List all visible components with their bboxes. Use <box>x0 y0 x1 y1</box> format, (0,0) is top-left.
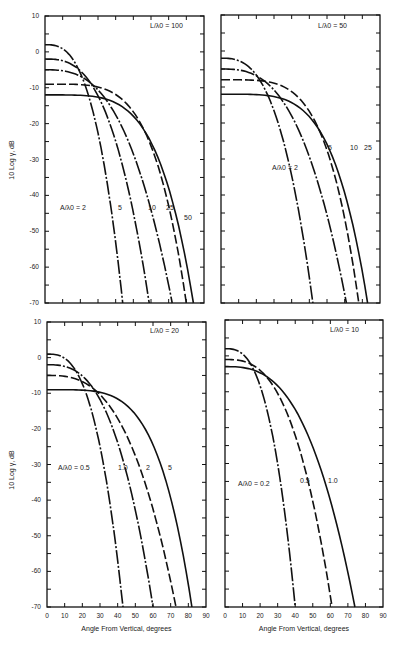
x-tick-label: 80 <box>185 612 193 619</box>
y-tick-label: -60 <box>30 263 40 270</box>
series-label: 1.0 <box>118 464 128 471</box>
curve-series <box>221 94 368 303</box>
series-label: A/λ0 = 2 <box>272 164 298 171</box>
x-tick-label: 10 <box>239 612 247 619</box>
series-label: 5 <box>168 464 172 471</box>
curve-series <box>45 70 172 303</box>
x-tick-label: 90 <box>379 612 387 619</box>
x-tick-label: 70 <box>167 612 175 619</box>
panel-top-left: 100-10-20-30-40-50-60-70L/λ0 = 100A/λ0 =… <box>30 12 204 306</box>
x-tick-label: 60 <box>149 612 157 619</box>
series-label: A/λ0 = 0.5 <box>58 464 90 471</box>
series-label: A/λ0 = 0.2 <box>238 480 270 487</box>
y-tick-label: 0 <box>37 354 41 361</box>
series-label: 2 <box>146 464 150 471</box>
panel-annotation: L/λ0 = 100 <box>150 22 183 29</box>
x-tick-label: 30 <box>96 612 104 619</box>
y-tick-label: -50 <box>30 227 40 234</box>
x-tick-label: 20 <box>79 612 87 619</box>
x-tick-label: 50 <box>132 612 140 619</box>
x-tick-label: 90 <box>202 612 210 619</box>
y-tick-label: 0 <box>35 48 39 55</box>
curve-series <box>47 354 123 607</box>
y-tick-label: -40 <box>30 191 40 198</box>
y-tick-label: 10 <box>34 318 42 325</box>
x-tick-label: 0 <box>45 612 49 619</box>
panel-bottom-right: 0102030405060708090Angle From Vertical, … <box>223 320 387 633</box>
series-label: A/λ0 = 2 <box>60 204 86 211</box>
plot-frame <box>221 15 380 303</box>
y-tick-label: -10 <box>32 389 42 396</box>
y-tick-label: 10 <box>32 12 40 19</box>
panel-bottom-left: 100-10-20-30-40-50-60-700102030405060708… <box>32 318 210 633</box>
y-tick-label: -20 <box>32 425 42 432</box>
x-tick-label: 40 <box>114 612 122 619</box>
x-tick-label: 60 <box>327 612 335 619</box>
curve-series <box>47 365 153 607</box>
panel-annotation: L/λ0 = 20 <box>150 327 179 334</box>
y-tick-label: -40 <box>32 496 42 503</box>
y-tick-label: -70 <box>30 299 40 306</box>
y-axis-label: 10 Log γ, dB <box>8 450 16 490</box>
panel-annotation: L/λ0 = 10 <box>330 326 359 333</box>
series-label: 1.0 <box>328 477 338 484</box>
y-axis-label: 10 Log γ, dB <box>8 140 16 180</box>
series-label: 25 <box>364 144 372 151</box>
series-label: 10 <box>350 144 358 151</box>
x-tick-label: 40 <box>292 612 300 619</box>
panel-top-right: L/λ0 = 50A/λ0 = 251025 <box>221 15 380 303</box>
series-label: 10 <box>148 204 156 211</box>
panel-annotation: L/λ0 = 50 <box>318 22 347 29</box>
x-tick-label: 0 <box>223 612 227 619</box>
x-tick-label: 80 <box>362 612 370 619</box>
y-tick-label: -30 <box>30 156 40 163</box>
y-tick-label: -60 <box>32 567 42 574</box>
series-label: 50 <box>184 214 192 221</box>
four-panel-chart: 100-10-20-30-40-50-60-70L/λ0 = 100A/λ0 =… <box>0 0 399 645</box>
y-tick-label: -50 <box>32 532 42 539</box>
y-tick-label: -20 <box>30 120 40 127</box>
x-axis-label: Angle From Vertical, degrees <box>259 625 350 633</box>
y-tick-label: -70 <box>32 603 42 610</box>
x-axis-label: Angle From Vertical, degrees <box>81 625 172 633</box>
curve-series <box>47 375 176 607</box>
curve-series <box>45 45 123 303</box>
x-tick-label: 10 <box>61 612 69 619</box>
y-tick-label: -30 <box>32 461 42 468</box>
series-label: 5 <box>118 204 122 211</box>
x-tick-label: 30 <box>274 612 282 619</box>
x-tick-label: 70 <box>344 612 352 619</box>
curve-series <box>221 69 346 303</box>
series-label: 0.5 <box>300 477 310 484</box>
curve-series <box>225 349 295 607</box>
x-tick-label: 20 <box>256 612 264 619</box>
y-tick-label: -10 <box>30 84 40 91</box>
x-tick-label: 50 <box>309 612 317 619</box>
